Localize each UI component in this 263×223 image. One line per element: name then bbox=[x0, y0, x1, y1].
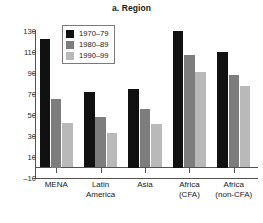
bar bbox=[217, 52, 228, 168]
bar bbox=[195, 72, 206, 168]
x-tick-mark bbox=[145, 168, 146, 173]
x-tick-mark bbox=[56, 168, 57, 173]
legend-swatch-icon bbox=[66, 52, 74, 60]
bar bbox=[151, 124, 162, 167]
chart-figure: a. Region 1301109070503010–10 MENALatinA… bbox=[0, 0, 263, 223]
bar bbox=[51, 99, 62, 167]
bar bbox=[128, 89, 139, 168]
bar bbox=[184, 55, 195, 167]
x-axis-label-line: Africa bbox=[203, 180, 263, 190]
x-axis-label-line: America bbox=[70, 190, 132, 200]
legend-item: 1970–79 bbox=[66, 28, 109, 39]
bar bbox=[95, 117, 106, 167]
legend-item: 1980–89 bbox=[66, 39, 109, 50]
chart-legend: 1970–791980–891990–99 bbox=[62, 25, 115, 64]
legend-swatch-icon bbox=[66, 30, 74, 38]
bar bbox=[40, 39, 51, 167]
x-tick-mark bbox=[234, 168, 235, 173]
legend-swatch-icon bbox=[66, 41, 74, 49]
bar bbox=[240, 86, 251, 168]
chart-title: a. Region bbox=[0, 3, 263, 13]
bar bbox=[140, 109, 151, 168]
y-axis-line bbox=[35, 30, 36, 179]
legend-label: 1990–99 bbox=[79, 51, 109, 60]
x-axis-label: Africa(non-CFA) bbox=[203, 180, 263, 199]
x-axis-line bbox=[35, 178, 258, 179]
bar bbox=[173, 31, 184, 168]
legend-label: 1970–79 bbox=[79, 29, 109, 38]
legend-item: 1990–99 bbox=[66, 50, 109, 61]
legend-label: 1980–89 bbox=[79, 40, 109, 49]
bar bbox=[84, 92, 95, 168]
bar bbox=[229, 75, 240, 167]
x-axis-label-line: (non-CFA) bbox=[203, 190, 263, 200]
bar bbox=[62, 123, 73, 167]
bar bbox=[107, 133, 118, 168]
x-tick-mark bbox=[101, 168, 102, 173]
x-tick-mark bbox=[189, 168, 190, 173]
